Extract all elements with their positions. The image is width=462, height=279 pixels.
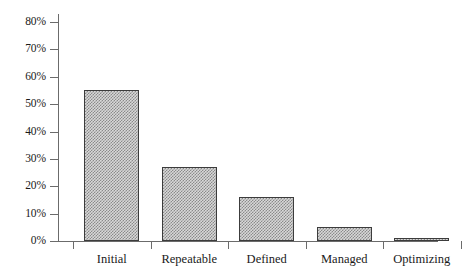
y-axis-tick: [50, 241, 59, 242]
bar: [317, 227, 372, 241]
y-axis-tick-label: 30%: [0, 153, 46, 165]
y-axis-tick-label: 60%: [0, 71, 46, 83]
x-axis-category-label: Managed: [306, 252, 384, 266]
y-axis-tick: [50, 214, 59, 215]
y-axis-tick-label: 10%: [0, 208, 46, 220]
y-axis-tick: [50, 22, 59, 23]
y-axis-tick: [50, 159, 59, 160]
y-axis-tick: [50, 186, 59, 187]
y-axis-tick: [50, 49, 59, 50]
x-axis-tick: [383, 241, 384, 249]
x-axis-category-label: Initial: [73, 252, 151, 266]
y-axis-tick: [50, 104, 59, 105]
bar: [84, 90, 139, 241]
y-axis-tick: [50, 77, 59, 78]
y-axis-tick-label: 80%: [0, 16, 46, 28]
y-axis-tick: [50, 132, 59, 133]
bar: [162, 167, 217, 241]
x-axis-category-label: Optimizing: [383, 252, 461, 266]
y-axis-tick-label: 50%: [0, 98, 46, 110]
x-axis-tick: [73, 241, 74, 249]
x-axis-category-label: Repeatable: [151, 252, 229, 266]
x-axis-line: [58, 241, 438, 242]
y-axis-tick-label: 0%: [0, 235, 46, 247]
x-axis-category-label: Defined: [228, 252, 306, 266]
y-axis-tick-label: 40%: [0, 126, 46, 138]
x-axis-tick: [228, 241, 229, 249]
bar: [394, 238, 449, 241]
x-axis-tick: [306, 241, 307, 249]
y-axis-tick-label: 20%: [0, 180, 46, 192]
y-axis-tick-label: 70%: [0, 43, 46, 55]
x-axis-tick: [151, 241, 152, 249]
bar: [239, 197, 294, 241]
